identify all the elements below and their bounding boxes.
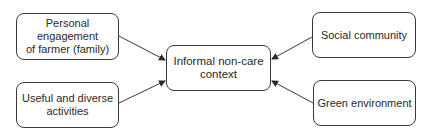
edge-social-to-center	[272, 37, 312, 59]
node-label: Social community	[321, 29, 407, 42]
edge-personal-to-center	[119, 36, 165, 60]
node-label: Useful and diverse activities	[22, 92, 113, 118]
node-social-community: Social community	[312, 12, 416, 58]
edge-green-to-center	[272, 81, 313, 103]
node-label: Informal non-care context	[173, 55, 263, 81]
node-personal-engagement: Personal engagement of farmer (family)	[16, 13, 119, 60]
node-useful-activities: Useful and diverse activities	[16, 82, 119, 128]
node-informal-non-care-context: Informal non-care context	[166, 45, 271, 91]
node-green-environment: Green environment	[313, 80, 416, 126]
node-label: Personal engagement of farmer (family)	[26, 17, 109, 56]
node-label: Green environment	[317, 97, 411, 110]
edge-useful-to-center	[119, 81, 165, 103]
